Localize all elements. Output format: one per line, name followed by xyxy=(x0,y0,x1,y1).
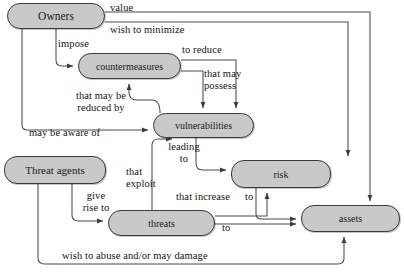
node-assets-label: assets xyxy=(335,213,366,224)
edge-label-that-may-be-reduced-by: that may be reduced by xyxy=(57,90,145,115)
edge-label-may-be-aware-of: may be aware of xyxy=(29,127,100,139)
node-countermeasures[interactable]: countermeasures xyxy=(78,53,181,79)
node-threat-agents[interactable]: Threat agents xyxy=(4,156,106,184)
node-threats-label: threats xyxy=(144,218,179,229)
edge-label-leading-to: leading to xyxy=(163,141,205,166)
edge-label-to-threats-assets: to xyxy=(222,222,230,234)
node-vulnerabilities[interactable]: vulnerabilities xyxy=(153,113,254,138)
edge-label-to-reduce: to reduce xyxy=(182,44,222,56)
node-owners[interactable]: Owners xyxy=(7,3,105,29)
edge-label-value: value xyxy=(110,2,133,14)
node-risk[interactable]: risk xyxy=(231,160,331,188)
edge-label-wish-to-minimize: wish to minimize xyxy=(110,24,185,36)
edge-risk-assets xyxy=(256,188,296,219)
node-risk-label: risk xyxy=(270,169,293,180)
diagram-canvas: Owners countermeasures vulnerabilities T… xyxy=(0,0,404,276)
node-assets[interactable]: assets xyxy=(301,205,400,232)
edge-label-impose: impose xyxy=(58,38,89,50)
edge-label-that-may-possess: that may possess xyxy=(204,68,241,93)
node-threats[interactable]: threats xyxy=(108,210,215,236)
node-countermeasures-label: countermeasures xyxy=(92,61,167,72)
node-vulnerabilities-label: vulnerabilities xyxy=(171,120,236,131)
edge-label-wish-to-abuse: wish to abuse and/or may damage xyxy=(62,250,208,262)
edge-label-to-risk-assets: to xyxy=(245,191,253,203)
node-threat-agents-label: Threat agents xyxy=(21,164,89,176)
edge-label-that-increase: that increase xyxy=(176,191,230,203)
edge-label-that-exploit: that exploit xyxy=(126,166,156,191)
edge-countermeasures-vulnerabilities-possess xyxy=(181,71,203,108)
edge-label-give-rise-to: give rise to xyxy=(77,190,115,215)
node-owners-label: Owners xyxy=(34,10,78,23)
